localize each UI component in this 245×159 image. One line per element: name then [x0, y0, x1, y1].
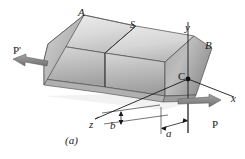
label-origin-c: C [178, 71, 185, 82]
figure-illustration [0, 0, 245, 159]
label-axis-y: y [185, 22, 190, 33]
label-vertex-a: A [78, 7, 85, 18]
figure-container: A S y B C x z b a P P' (a) [0, 0, 245, 159]
origin-point-C [186, 77, 191, 82]
dimension-b-arrowhead-up [119, 111, 124, 116]
label-axis-z: z [89, 119, 93, 130]
label-force-p-prime: P' [13, 45, 21, 56]
label-section-s: S [130, 20, 135, 30]
figure-caption: (a) [65, 135, 78, 146]
label-dimension-a: a [166, 128, 172, 139]
label-force-p: P [212, 119, 218, 130]
dimension-b-arrowhead-down [119, 120, 124, 125]
label-vertex-b: B [205, 40, 212, 51]
dimension-a-arrowhead-right [182, 118, 188, 123]
label-axis-x: x [231, 93, 236, 104]
label-dimension-b: b [110, 120, 116, 131]
